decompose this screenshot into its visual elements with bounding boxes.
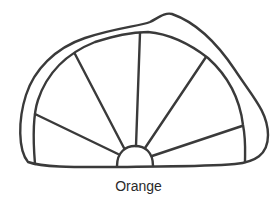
segment-divider-5 <box>152 126 242 156</box>
orange-slice-illustration <box>0 0 277 199</box>
orange-peel-outline <box>20 14 268 167</box>
segment-divider-1 <box>35 114 118 154</box>
orange-pith-center <box>117 146 153 166</box>
segment-divider-3 <box>136 33 140 146</box>
figure-caption: Orange <box>0 178 277 194</box>
segment-divider-2 <box>75 54 124 148</box>
segment-divider-4 <box>145 57 206 148</box>
